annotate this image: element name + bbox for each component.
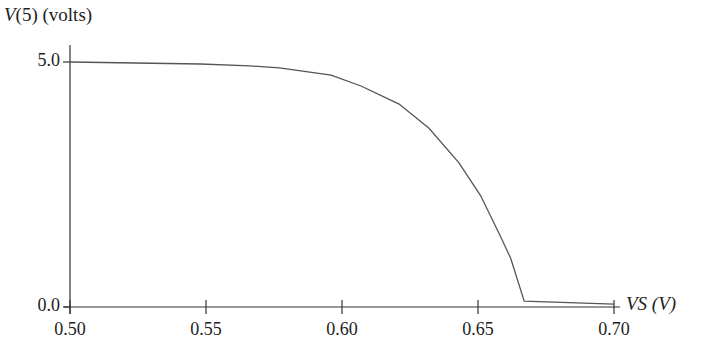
y-tick-label: 5.0 xyxy=(10,50,60,71)
series-line-v5 xyxy=(70,62,614,304)
chart-canvas xyxy=(0,0,701,361)
x-tick-label: 0.70 xyxy=(584,319,644,340)
x-tick-label: 0.65 xyxy=(448,319,508,340)
axes xyxy=(64,45,620,314)
x-tick-label: 0.60 xyxy=(312,319,372,340)
y-ticks xyxy=(63,62,70,307)
x-axis-label: VS (V) xyxy=(626,293,676,315)
y-axis-label-var: V xyxy=(4,4,16,25)
x-tick-label: 0.50 xyxy=(40,319,100,340)
y-tick-label: 0.0 xyxy=(10,295,60,316)
y-axis-label-rest: (5) (volts) xyxy=(16,4,93,25)
y-axis-label: V(5) (volts) xyxy=(4,4,92,26)
x-tick-label: 0.55 xyxy=(176,319,236,340)
